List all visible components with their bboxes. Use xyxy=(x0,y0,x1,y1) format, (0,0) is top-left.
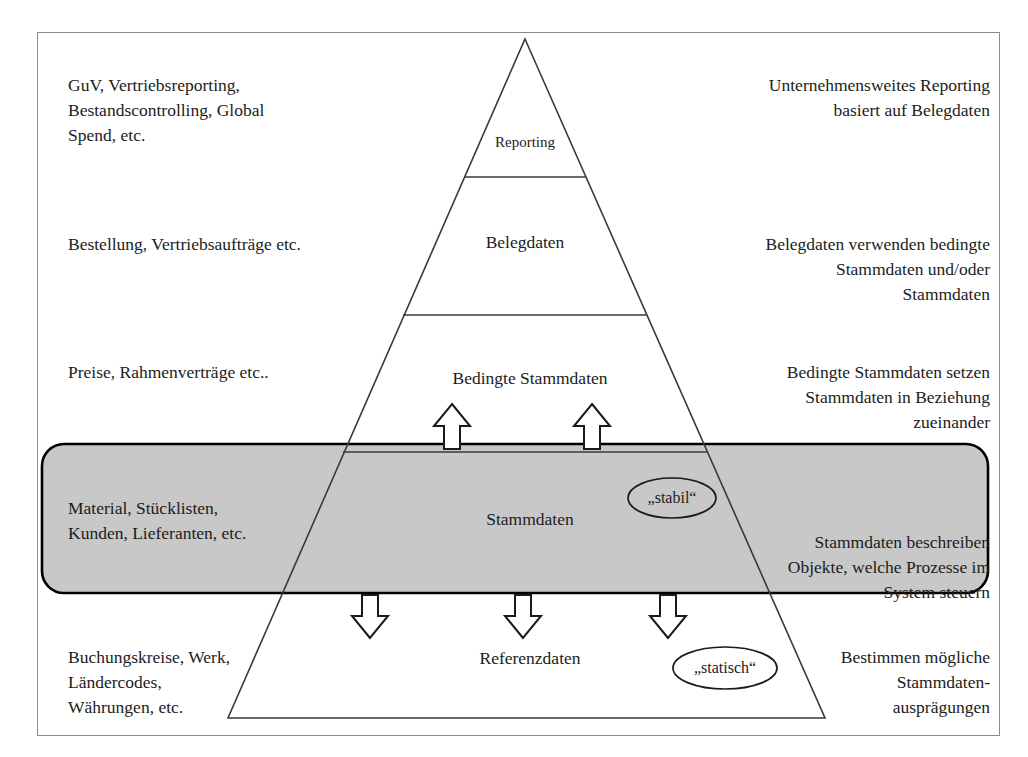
annotation-left-bedingte-stammdaten: Preise, Rahmenverträge etc.. xyxy=(68,360,358,385)
tier-label-bedingte-stammdaten: Bedingte Stammdaten xyxy=(415,367,645,389)
annotation-right-reporting: Unternehmensweites Reporting basiert auf… xyxy=(690,73,990,123)
annotation-left-stammdaten: Material, Stücklisten, Kunden, Lieferant… xyxy=(68,496,328,546)
annotation-right-belegdaten: Belegdaten verwenden bedingte Stammdaten… xyxy=(690,232,990,307)
tier-label-referenzdaten: Referenzdaten xyxy=(450,647,610,669)
annotation-right-bedingte-stammdaten: Bedingte Stammdaten setzen Stammdaten in… xyxy=(690,360,990,435)
annotation-right-referenzdaten: Bestimmen mögliche Stammdaten- ausprägun… xyxy=(690,645,990,720)
diagram-canvas: Reporting Belegdaten Bedingte Stammdaten… xyxy=(0,0,1028,757)
annotation-left-belegdaten: Bestellung, Vertriebsaufträge etc. xyxy=(68,232,358,257)
annotation-left-reporting: GuV, Vertriebsreporting, Bestandscontrol… xyxy=(68,73,318,148)
tier-label-stammdaten: Stammdaten xyxy=(455,508,605,530)
tier-label-reporting: Reporting xyxy=(465,131,585,153)
annotation-right-stammdaten: Stammdaten beschreiben Objekte, welche P… xyxy=(690,530,990,605)
tier-label-belegdaten: Belegdaten xyxy=(430,231,620,253)
annotation-left-referenzdaten: Buchungskreise, Werk, Ländercodes, Währu… xyxy=(68,645,298,720)
callout-stabil: „stabil“ xyxy=(628,489,716,507)
